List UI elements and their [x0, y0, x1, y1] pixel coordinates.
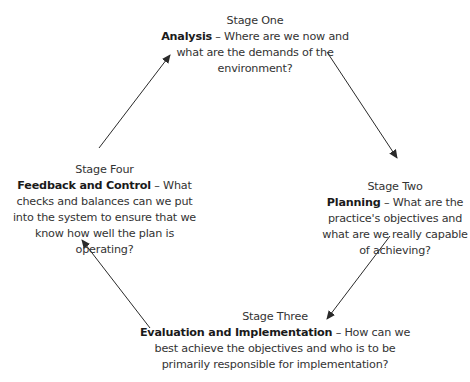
separator: – — [212, 30, 224, 43]
stage-description: What — [163, 179, 192, 192]
stage-heading: Stage Two — [320, 179, 470, 195]
stage-description-rest: checks and balances can we put into the … — [13, 195, 196, 256]
stage-three: Stage Three Evaluation and Implementatio… — [130, 309, 420, 373]
stage-four: Stage Four Feedback and Control – What c… — [12, 162, 197, 258]
stage-description: What are the — [393, 196, 464, 209]
stage-two: Stage Two Planning – What are the practi… — [320, 179, 470, 259]
separator: – — [332, 326, 344, 339]
separator: – — [381, 196, 393, 209]
stage-title: Planning — [327, 196, 381, 209]
stage-title: Analysis — [161, 30, 212, 43]
stage-heading: Stage Four — [12, 162, 197, 178]
stage-title: Evaluation and Implementation — [140, 326, 332, 339]
stage-description: Where are we now and — [224, 30, 349, 43]
stage-description-rest: what are the demands of the environment? — [176, 46, 333, 75]
stage-one: Stage One Analysis – Where are we now an… — [150, 13, 360, 77]
stage-description-rest: practice's objectives and what are we re… — [322, 212, 468, 257]
stage-description: How — [344, 326, 368, 339]
stage-heading: Stage One — [150, 13, 360, 29]
stage-title: Feedback and Control — [17, 179, 151, 192]
stage-heading: Stage Three — [130, 309, 420, 325]
separator: – — [151, 179, 163, 192]
